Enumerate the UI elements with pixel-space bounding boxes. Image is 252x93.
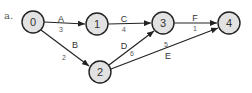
node-4-label: 4 (226, 17, 232, 29)
node-4: 4 (218, 12, 240, 34)
edge-c-weight: 4 (122, 26, 126, 33)
edge-a: A 3 (44, 14, 85, 33)
edge-f: F 1 (174, 13, 217, 32)
node-2: 2 (89, 61, 111, 83)
node-1-label: 1 (94, 18, 100, 30)
network-diagram: a. A 3 B 2 C 4 D 6 5 E F 1 0 1 2 (0, 0, 252, 93)
edge-f-weight: 1 (193, 25, 197, 32)
edge-a-name: A (58, 14, 64, 24)
edge-e-weight: 5 (164, 41, 168, 48)
node-3-label: 3 (160, 17, 166, 29)
edge-b-name: B (72, 40, 78, 50)
edge-b-weight: 2 (62, 54, 66, 61)
node-0-label: 0 (30, 16, 36, 28)
part-label: a. (4, 10, 13, 21)
edge-f-name: F (192, 13, 198, 23)
node-0: 0 (22, 11, 44, 33)
edge-d: D 6 (109, 31, 154, 65)
edge-d-weight: 6 (130, 50, 134, 57)
edge-c: C 4 (108, 14, 151, 33)
node-2-label: 2 (97, 66, 103, 78)
edge-d-name: D (121, 41, 128, 51)
edge-b: B 2 (41, 30, 89, 66)
node-3: 3 (152, 12, 174, 34)
edge-c-name: C (121, 14, 128, 24)
edge-e-name: E (165, 51, 171, 61)
edge-a-weight: 3 (59, 26, 63, 33)
node-1: 1 (86, 13, 108, 35)
